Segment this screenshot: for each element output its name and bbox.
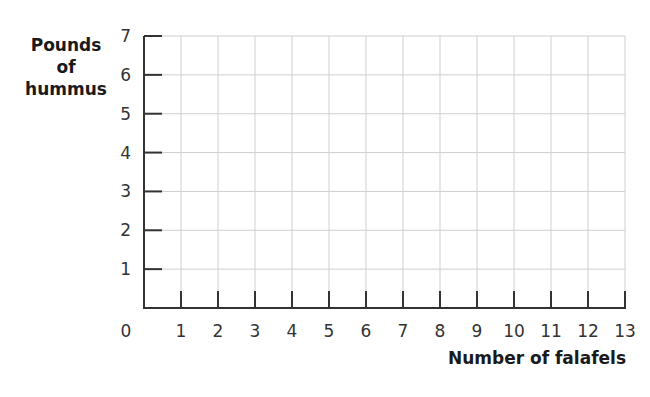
y-tick-label: 2 [120, 220, 131, 240]
x-tick-label: 7 [398, 321, 409, 341]
plot-area: 1234567123456789101112130 [0, 0, 650, 397]
x-tick-label: 1 [176, 321, 187, 341]
y-tick-label: 5 [120, 104, 131, 124]
x-tick-label: 6 [361, 321, 372, 341]
x-axis-title: Number of falafels [448, 348, 626, 368]
y-tick-label: 7 [120, 26, 131, 46]
y-tick-label: 6 [120, 65, 131, 85]
x-tick-label: 10 [503, 321, 525, 341]
x-tick-label: 9 [472, 321, 483, 341]
x-tick-label: 12 [577, 321, 599, 341]
x-tick-label: 5 [324, 321, 335, 341]
x-tick-label: 2 [213, 321, 224, 341]
x-tick-label: 3 [250, 321, 261, 341]
x-tick-label: 8 [435, 321, 446, 341]
x-tick-label: 11 [540, 321, 562, 341]
x-tick-label: 4 [287, 321, 298, 341]
y-tick-label: 4 [120, 143, 131, 163]
x-tick-label: 13 [614, 321, 636, 341]
y-tick-label: 1 [120, 259, 131, 279]
chart: Pounds of hummus 12345671234567891011121… [0, 0, 650, 397]
origin-label: 0 [121, 321, 132, 341]
y-tick-label: 3 [120, 181, 131, 201]
